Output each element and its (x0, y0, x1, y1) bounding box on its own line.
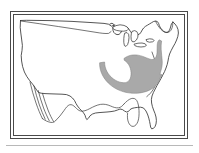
map-canvas (0, 0, 199, 153)
distribution-map-figure: Distribution map of the contiguous Unite… (0, 0, 199, 153)
lake-ontario-outline (146, 39, 154, 42)
